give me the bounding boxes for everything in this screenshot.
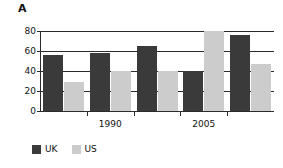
x-tick-mark-4 (227, 112, 228, 116)
bar-us-3 (158, 71, 178, 111)
x-tick-mark-1 (87, 112, 88, 116)
legend-label-uk: UK (45, 145, 58, 154)
figure-panel-a: A 020406080 19902005 UK US (0, 0, 283, 168)
panel-label: A (18, 2, 27, 15)
y-tick-mark-80 (37, 31, 40, 32)
legend-item-uk: UK (32, 145, 58, 154)
bar-us-1 (64, 82, 84, 111)
x-tick-mark-3 (180, 112, 181, 116)
gridline-80 (40, 31, 274, 32)
bar-us-2 (111, 71, 131, 111)
y-tick-label-60: 60 (25, 47, 36, 56)
legend-item-us: US (72, 145, 97, 154)
y-tick-label-80: 80 (25, 27, 36, 36)
x-tick-mark-2 (134, 112, 135, 116)
bar-uk-3 (137, 46, 157, 111)
y-tick-label-0: 0 (30, 107, 36, 116)
legend-label-us: US (85, 145, 97, 154)
y-tick-mark-40 (37, 71, 40, 72)
y-tick-label-20: 20 (25, 87, 36, 96)
bar-uk-1 (43, 55, 63, 111)
y-tick-mark-20 (37, 91, 40, 92)
legend-swatch-us-icon (72, 145, 81, 154)
bar-uk-2 (90, 53, 110, 111)
chart-legend: UK US (32, 145, 97, 154)
bar-uk-5 (230, 35, 250, 111)
bar-us-5 (251, 64, 271, 111)
legend-swatch-uk-icon (32, 145, 41, 154)
y-tick-mark-60 (37, 51, 40, 52)
bar-uk-4 (183, 71, 203, 111)
x-tick-label-1990: 1990 (99, 119, 122, 129)
x-axis-baseline (40, 111, 274, 112)
y-tick-label-40: 40 (25, 67, 36, 76)
plot-area: 020406080 19902005 (40, 31, 274, 111)
bar-us-4 (204, 31, 224, 111)
x-tick-label-2005: 2005 (192, 119, 215, 129)
